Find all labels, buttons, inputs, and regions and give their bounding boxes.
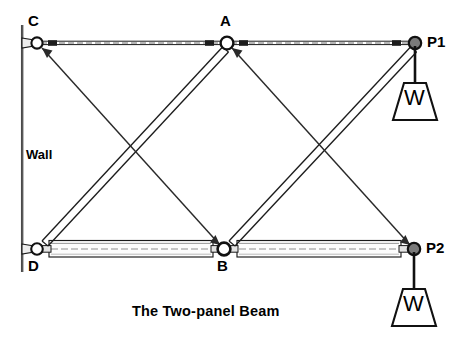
joint-D — [22, 243, 43, 255]
joint-C — [22, 37, 43, 48]
joint-B-pin — [218, 243, 231, 256]
wall-label: Wall — [26, 148, 52, 161]
joint-label-C: C — [28, 13, 39, 28]
figure-title: The Two-panel Beam — [132, 304, 280, 319]
tie-C-B-arrow-head-top — [42, 48, 53, 58]
two-panel-beam-figure: C A P1 D B P2 Wall W W The Two-panel Bea… — [0, 0, 458, 349]
strut-D-A-edge-left — [42, 47, 223, 241]
strut-D-A-edge-right — [48, 52, 229, 246]
joint-C-pin — [31, 37, 42, 48]
tie-A-P2-arrow-head-top — [232, 48, 243, 58]
joint-label-P2: P2 — [426, 240, 444, 255]
joint-D-pin — [31, 243, 43, 255]
load-P2-weight-label: W — [403, 293, 424, 315]
wall-group — [22, 25, 23, 272]
strut-B-P1-edge-left — [229, 47, 411, 241]
top-rod-coupling-4 — [392, 40, 401, 46]
tie-A-P2-line — [232, 48, 410, 245]
top-rod-coupling-2 — [205, 40, 214, 46]
joint-label-B: B — [217, 258, 228, 273]
top-rod-coupling-3 — [239, 40, 248, 46]
joint-label-D: D — [28, 258, 39, 273]
diagonal-tie-A-P2 — [232, 48, 410, 245]
top-rod-coupling-1 — [48, 40, 57, 46]
joint-label-P1: P1 — [427, 34, 445, 49]
diagonal-strut-D-A — [42, 47, 229, 246]
truss-diagram — [0, 0, 458, 349]
joint-A — [221, 37, 234, 50]
joint-label-A: A — [220, 13, 231, 28]
joint-A-pin — [221, 37, 234, 50]
load-P1-weight-label: W — [404, 87, 425, 109]
joint-B — [218, 243, 231, 256]
